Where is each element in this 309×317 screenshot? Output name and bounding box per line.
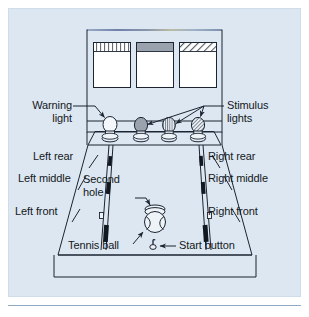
label-start-button: Start button — [179, 239, 235, 252]
label-right-middle: Right middle — [208, 172, 268, 185]
leader-warning-light — [73, 106, 105, 118]
stimulus-light-3 — [190, 117, 205, 141]
label-left-rear: Left rear — [33, 150, 73, 163]
tennis-ball — [145, 212, 166, 233]
hole-left-rear — [108, 156, 112, 166]
label-stimulus-lights: Stimulus lights — [227, 99, 268, 124]
stimulus-light-1 — [133, 117, 148, 141]
leader-tennis-ball — [133, 232, 143, 244]
stimulus-light-2 — [162, 117, 177, 141]
panel-center — [137, 43, 174, 88]
console-top-accent — [88, 29, 221, 31]
hole-right-middle — [201, 182, 206, 194]
leader-second-hole — [135, 198, 150, 205]
label-warning-light: Warning light — [6, 99, 72, 124]
label-right-front: Right front — [208, 205, 258, 218]
panel-left — [94, 43, 131, 88]
label-left-front: Left front — [15, 205, 57, 218]
label-left-middle: Left middle — [18, 172, 71, 185]
hole-left-front-lip — [100, 213, 104, 219]
hole-right-rear — [199, 156, 203, 166]
leader-left-front — [72, 209, 80, 222]
floor-base-slab — [54, 255, 256, 277]
panel-right — [180, 43, 217, 88]
label-right-rear: Right rear — [208, 150, 255, 163]
leader-left-rear — [89, 155, 98, 168]
warning-light — [102, 117, 118, 142]
label-tennis-ball: Tennis ball — [68, 239, 119, 252]
start-button[interactable] — [150, 240, 156, 250]
figure-root: Warning light Stimulus lights Left rear … — [0, 0, 309, 317]
console-panels — [94, 43, 217, 88]
label-second-hole: Second hole — [83, 173, 120, 198]
bottom-rule — [8, 305, 301, 306]
